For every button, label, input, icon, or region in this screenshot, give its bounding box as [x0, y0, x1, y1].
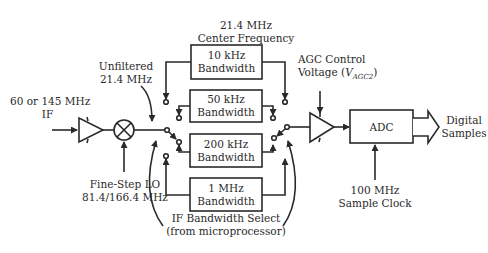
agc-line1: AGC Control — [298, 53, 380, 66]
if-input-label: 60 or 145 MHz IF — [10, 95, 85, 120]
agc-prefix: Voltage ( — [298, 66, 345, 78]
filter-1mhz-line1: 1 MHz — [190, 182, 262, 195]
lo-line2: 81.4/166.4 MHz — [70, 191, 180, 204]
digital-samples-label: Digital Samples — [440, 114, 488, 139]
center-frequency-line2: Center Frequency — [196, 32, 296, 45]
digital-output-bus-arrow — [413, 111, 439, 143]
filter-10khz-line1: 10 kHz — [191, 49, 262, 62]
agc-suffix: ) — [373, 66, 377, 78]
unfiltered-line1: Unfiltered — [86, 60, 166, 73]
clock-line2: Sample Clock — [335, 197, 415, 210]
mixer-icon — [114, 120, 134, 140]
if-amplifier-icon — [79, 117, 103, 143]
filter-200khz-line2: Bandwidth — [190, 151, 262, 164]
agc-amplifier-icon — [310, 112, 334, 142]
filter-50khz-line1: 50 kHz — [190, 93, 262, 106]
filter-10khz-line2: Bandwidth — [191, 62, 262, 75]
center-frequency-line1: 21.4 MHz — [196, 19, 296, 32]
adc-label: ADC — [350, 121, 413, 134]
filter-200khz-label: 200 kHz Bandwidth — [190, 138, 262, 163]
filter-10khz-label: 10 kHz Bandwidth — [191, 49, 262, 74]
filter-50khz-label: 50 kHz Bandwidth — [190, 93, 262, 118]
filter-50khz-line2: Bandwidth — [190, 106, 262, 119]
if-input-line1: 60 or 145 MHz — [10, 95, 85, 108]
digital-line2: Samples — [440, 127, 488, 140]
lo-line1: Fine-Step LO — [70, 178, 180, 191]
unfiltered-label: Unfiltered 21.4 MHz — [86, 60, 166, 85]
bw-select-label: IF Bandwidth Select (from microprocessor… — [166, 212, 286, 237]
agc-label: AGC Control Voltage (VAGC2) — [298, 53, 380, 83]
bw-select-line1: IF Bandwidth Select — [166, 212, 286, 225]
filter-1mhz-label: 1 MHz Bandwidth — [190, 182, 262, 207]
filter-1mhz-line2: Bandwidth — [190, 195, 262, 208]
unfiltered-line2: 21.4 MHz — [86, 73, 166, 86]
agc-subscript: AGC2 — [353, 73, 373, 81]
digital-line1: Digital — [440, 114, 488, 127]
if-input-line2: IF — [10, 108, 85, 121]
center-frequency-label: 21.4 MHz Center Frequency — [196, 19, 296, 44]
filter-200khz-line1: 200 kHz — [190, 138, 262, 151]
agc-symbol: V — [345, 66, 353, 78]
agc-line2: Voltage (VAGC2) — [298, 66, 380, 84]
unfiltered-leader — [141, 86, 152, 121]
bw-select-line2: (from microprocessor) — [166, 225, 286, 238]
lo-label: Fine-Step LO 81.4/166.4 MHz — [70, 178, 180, 203]
sample-clock-label: 100 MHz Sample Clock — [335, 184, 415, 209]
clock-line1: 100 MHz — [335, 184, 415, 197]
